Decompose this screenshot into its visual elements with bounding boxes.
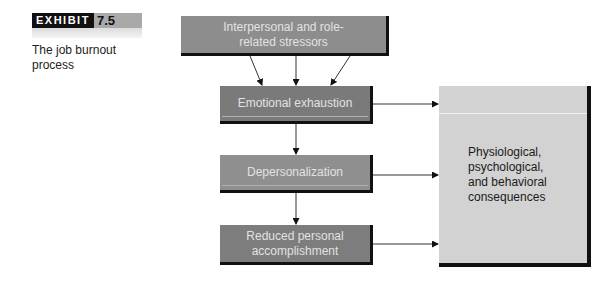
node-emotional-label: Emotional exhaustion xyxy=(238,96,353,111)
node-emotional-exhaustion: Emotional exhaustion xyxy=(220,86,373,124)
node-reduced-label: Reduced personal accomplishment xyxy=(233,229,358,259)
node-stressors: Interpersonal and role-related stressors xyxy=(181,16,389,56)
node-consequences-label: Physiological, psychological, and behavi… xyxy=(468,145,558,205)
node-reduced-accomplishment: Reduced personal accomplishment xyxy=(220,225,373,265)
node-stressors-label: Interpersonal and role-related stressors xyxy=(219,20,349,50)
node-depersonalization: Depersonalization xyxy=(220,155,373,193)
node-consequences: Physiological, psychological, and behavi… xyxy=(439,86,591,267)
node-depersonalization-label: Depersonalization xyxy=(247,165,343,180)
